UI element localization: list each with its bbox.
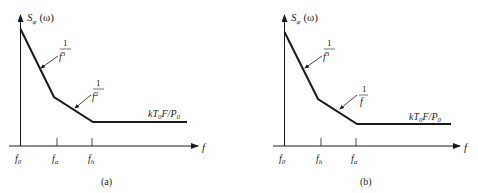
slope-label-2: 1 f bbox=[359, 84, 368, 107]
slope-label-2: 1 f2 bbox=[92, 78, 104, 102]
y-axis-label: Sφ(ω) bbox=[27, 11, 54, 26]
tick-label-f0: f0 bbox=[15, 153, 22, 166]
tick-label-f-h: fh bbox=[316, 153, 323, 166]
phase-noise-diagram: Sφ(ω) 1 f3 1 f2 kT0F/P0 f f0 fα fh (a) bbox=[0, 0, 478, 193]
svg-text:1: 1 bbox=[327, 38, 332, 48]
svg-text:f2: f2 bbox=[92, 90, 99, 102]
svg-text:1: 1 bbox=[362, 84, 367, 94]
panel-b: Sφ(ω) 1 f3 1 f kT0F/P0 f f0 fh fα (b) bbox=[273, 11, 469, 188]
svg-text:f3: f3 bbox=[323, 50, 330, 62]
slope-label-1: 1 f3 bbox=[59, 38, 71, 62]
floor-label: kT0F/P0 bbox=[148, 108, 181, 121]
slope-arrow-1 bbox=[41, 56, 58, 68]
tick-label-f-alpha: fα bbox=[52, 153, 59, 166]
svg-text:f: f bbox=[360, 96, 364, 107]
svg-text:1: 1 bbox=[96, 78, 101, 88]
caption-a: (a) bbox=[101, 176, 112, 188]
x-axis-label: f bbox=[202, 141, 207, 153]
svg-text:f3: f3 bbox=[59, 50, 66, 62]
slope-arrow-2 bbox=[340, 95, 357, 109]
tick-label-f-h: fh bbox=[88, 153, 95, 166]
panel-a: Sφ(ω) 1 f3 1 f2 kT0F/P0 f f0 fα fh (a) bbox=[9, 11, 207, 188]
caption-b: (b) bbox=[360, 176, 372, 188]
slope-arrow-1 bbox=[305, 56, 322, 68]
y-axis-label: Sφ(ω) bbox=[291, 11, 318, 26]
tick-label-f0: f0 bbox=[279, 153, 286, 166]
tick-label-f-alpha: fα bbox=[351, 153, 358, 166]
slope-label-1: 1 f3 bbox=[323, 38, 335, 62]
slope-arrow-2 bbox=[75, 95, 91, 108]
x-axis-label: f bbox=[464, 141, 469, 153]
svg-text:1: 1 bbox=[63, 38, 68, 48]
floor-label: kT0F/P0 bbox=[409, 111, 442, 124]
